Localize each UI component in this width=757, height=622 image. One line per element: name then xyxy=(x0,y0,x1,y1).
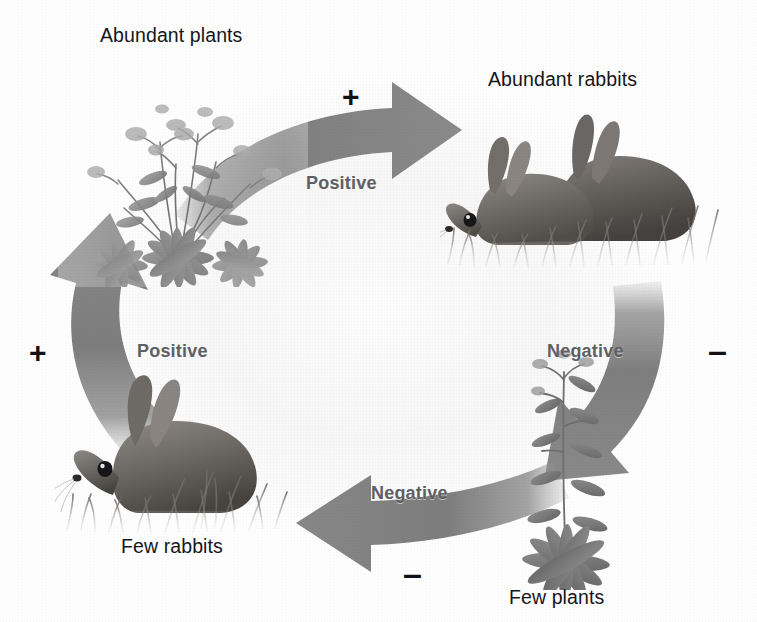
sign-left-plus: + xyxy=(29,338,47,368)
node-label-few-plants: Few plants xyxy=(509,588,604,608)
rabbit-single xyxy=(55,375,257,513)
sign-top-plus: + xyxy=(342,82,360,112)
flow-label-right-negative: Negative xyxy=(547,342,624,360)
abundant-rabbits-illustration xyxy=(440,96,730,281)
node-label-abundant-rabbits: Abundant rabbits xyxy=(488,70,637,90)
few-rabbits-illustration xyxy=(55,368,295,543)
feedback-cycle-diagram: Abundant plants Abundant rabbits Few pla… xyxy=(0,0,757,622)
sign-right-minus: – xyxy=(708,333,727,367)
node-label-abundant-plants: Abundant plants xyxy=(100,26,242,46)
flow-label-top-positive: Positive xyxy=(306,174,377,192)
sign-bottom-minus: – xyxy=(403,556,422,590)
rabbit-front xyxy=(440,137,594,254)
abundant-plants-illustration xyxy=(58,52,308,287)
flow-label-left-positive: Positive xyxy=(137,342,208,360)
node-label-few-rabbits: Few rabbits xyxy=(121,537,223,557)
flow-label-bottom-negative: Negative xyxy=(371,484,448,502)
few-plants-illustration xyxy=(500,340,635,590)
